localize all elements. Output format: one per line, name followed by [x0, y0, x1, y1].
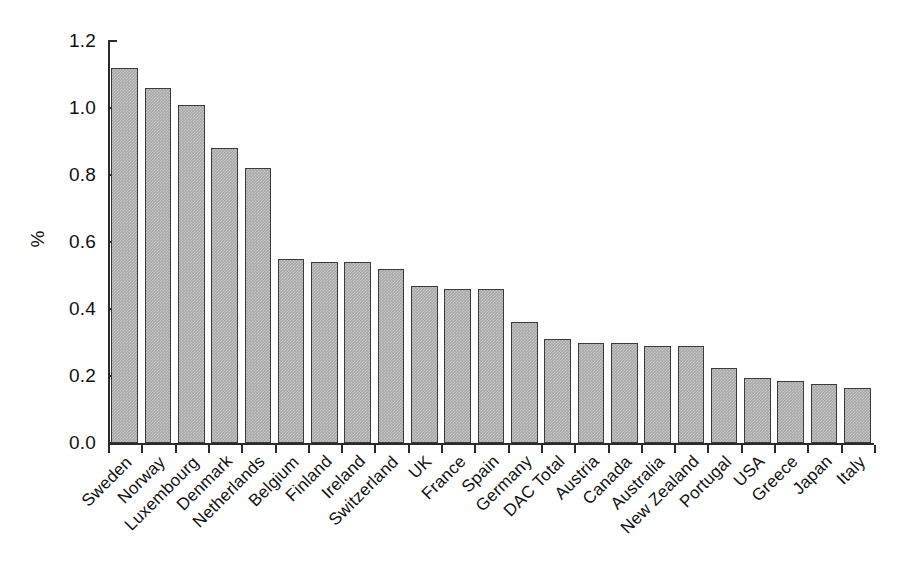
bar-austria	[578, 343, 605, 444]
x-axis-tick	[807, 445, 809, 453]
x-axis-tick	[141, 445, 143, 453]
bar-denmark	[211, 148, 238, 443]
bar-uk	[411, 286, 438, 443]
x-axis-tick	[441, 445, 443, 453]
bar-new-zealand	[678, 346, 705, 443]
x-axis-tick	[341, 445, 343, 453]
bar-portugal	[711, 368, 738, 443]
bar-netherlands	[245, 168, 272, 443]
y-axis-tick-label: 0.2	[32, 366, 96, 385]
bar-greece	[777, 381, 804, 443]
x-axis-tick	[474, 445, 476, 453]
x-axis-tick	[841, 445, 843, 453]
x-axis-tick	[774, 445, 776, 453]
x-axis-tick	[608, 445, 610, 453]
y-axis-tick-label: 0.6	[32, 232, 96, 251]
y-axis-tick-label: 1.0	[32, 98, 96, 117]
x-axis-tick	[541, 445, 543, 453]
x-axis-label-italy: Italy	[833, 452, 870, 489]
bar-switzerland	[378, 269, 405, 443]
x-axis-tick	[208, 445, 210, 453]
x-axis-tick	[275, 445, 277, 453]
bar-france	[444, 289, 471, 443]
bar-italy	[844, 388, 871, 443]
x-axis-tick	[874, 445, 876, 453]
x-axis-tick	[175, 445, 177, 453]
bar-germany	[511, 322, 538, 443]
y-axis-tick-label: 0.8	[32, 165, 96, 184]
x-axis-line	[108, 443, 874, 445]
bar-sweden	[111, 68, 138, 443]
bar-dac-total	[544, 339, 571, 443]
bar-usa	[744, 378, 771, 443]
bar-spain	[478, 289, 505, 443]
x-axis-tick	[641, 445, 643, 453]
x-axis-tick	[508, 445, 510, 453]
bar-canada	[611, 343, 638, 444]
x-axis-tick	[374, 445, 376, 453]
bar-finland	[311, 262, 338, 443]
x-axis-tick	[108, 445, 110, 453]
bar-australia	[644, 346, 671, 443]
x-axis-tick	[707, 445, 709, 453]
y-axis-tick-label: 0.4	[32, 299, 96, 318]
x-axis-tick	[574, 445, 576, 453]
x-axis-tick	[741, 445, 743, 453]
bar-norway	[145, 88, 172, 443]
y-axis-tick-label: 0.0	[32, 433, 96, 452]
y-axis-tick-label: 1.2	[32, 31, 96, 50]
bar-luxembourg	[178, 105, 205, 443]
x-axis-tick	[308, 445, 310, 453]
bar-belgium	[278, 259, 305, 443]
bar-chart: % 0.00.20.40.60.81.01.2 SwedenNorwayLuxe…	[0, 0, 901, 587]
bar-ireland	[344, 262, 371, 443]
x-axis-tick	[241, 445, 243, 453]
bar-japan	[811, 384, 838, 443]
x-axis-tick	[408, 445, 410, 453]
x-axis-tick	[674, 445, 676, 453]
plot-area	[108, 41, 874, 443]
